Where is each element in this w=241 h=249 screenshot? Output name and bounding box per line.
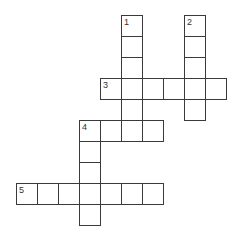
- crossword-cell[interactable]: [142, 183, 164, 205]
- crossword-cell[interactable]: [37, 183, 59, 205]
- crossword-cell[interactable]: [163, 78, 185, 100]
- crossword-cell[interactable]: [121, 57, 143, 79]
- crossword-cell[interactable]: [142, 120, 164, 142]
- crossword-cell[interactable]: [184, 99, 206, 121]
- crossword-cell[interactable]: [100, 183, 122, 205]
- clue-number: 3: [103, 80, 108, 90]
- clue-number: 2: [187, 17, 192, 27]
- crossword-cell[interactable]: [184, 57, 206, 79]
- crossword-cell[interactable]: [184, 36, 206, 58]
- clue-number: 5: [19, 185, 24, 195]
- crossword-cell[interactable]: [58, 183, 80, 205]
- crossword-cell[interactable]: [121, 183, 143, 205]
- crossword-cell[interactable]: [79, 183, 101, 205]
- crossword-cell[interactable]: 5: [16, 183, 38, 205]
- clue-number: 4: [82, 122, 87, 132]
- crossword-cell[interactable]: 1: [121, 15, 143, 37]
- crossword-cell[interactable]: 4: [79, 120, 101, 142]
- crossword-cell[interactable]: [121, 120, 143, 142]
- crossword-cell[interactable]: [79, 162, 101, 184]
- crossword-cell[interactable]: [142, 78, 164, 100]
- clue-number: 1: [124, 17, 129, 27]
- crossword-cell[interactable]: [100, 120, 122, 142]
- crossword-cell[interactable]: [79, 141, 101, 163]
- crossword-cell[interactable]: [184, 78, 206, 100]
- crossword-cell[interactable]: 2: [184, 15, 206, 37]
- crossword-cell[interactable]: [121, 78, 143, 100]
- crossword-cell[interactable]: 3: [100, 78, 122, 100]
- crossword-grid: 12345: [0, 0, 241, 249]
- crossword-cell[interactable]: [79, 204, 101, 226]
- crossword-cell[interactable]: [205, 78, 227, 100]
- crossword-cell[interactable]: [121, 36, 143, 58]
- crossword-cell[interactable]: [121, 99, 143, 121]
